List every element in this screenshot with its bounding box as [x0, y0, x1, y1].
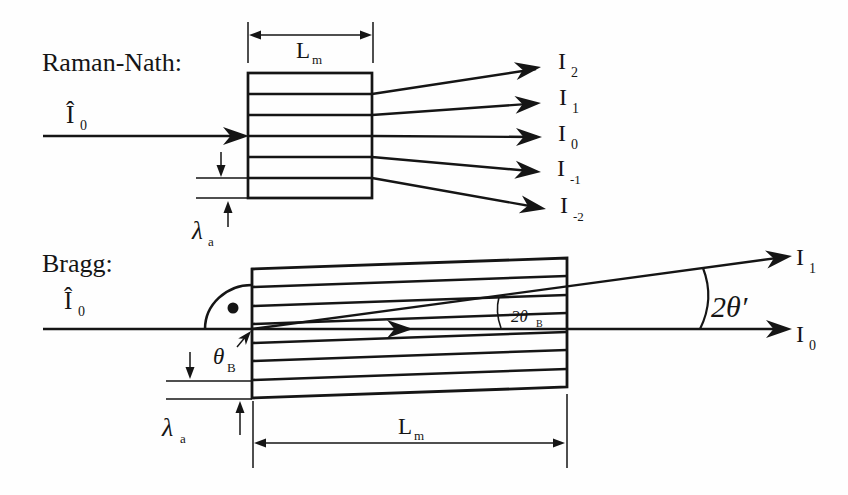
incident-beam-label-sub: 0 [80, 118, 87, 133]
spacing-arrowhead-up [236, 401, 245, 413]
raman-nath-labels: Raman-Nath: Î 0 L m λ a I 2 I 1 I 0 I -1… [42, 38, 584, 249]
internal-angle-label: 2θ [511, 307, 528, 326]
order-arrowhead-im2 [519, 196, 548, 218]
acoustic-wavefront-lines [248, 94, 372, 178]
width-label: L [296, 38, 310, 63]
bragg-labels: Bragg: Î 0 θ B 2θ B 2θ′ I 1 I 0 L m λ a [42, 244, 816, 446]
wavelength-label: λ [161, 413, 173, 442]
acoustic-wavefront-line [252, 276, 567, 287]
order-label-i1: I [796, 244, 804, 270]
dimension-arrowhead [254, 439, 266, 448]
order-label-im1: I [557, 155, 565, 181]
lambda-callout-top [196, 152, 248, 227]
incident-beam-label: Î [66, 101, 75, 128]
internal-angle-arc [497, 297, 501, 328]
incident-beam-label: Î [64, 287, 73, 314]
order-label-i0: I [558, 120, 566, 146]
spacing-arrowhead-up [224, 201, 233, 213]
order-arrowhead-i1 [765, 247, 793, 268]
acoustic-wavefront-line [252, 369, 567, 380]
order-label-i0-sub: 0 [571, 137, 578, 152]
wavelength-label-sub: a [180, 431, 186, 446]
bragg-title: Bragg: [42, 249, 113, 278]
bragg-arrowheads [186, 247, 794, 447]
wavelength-label-sub: a [208, 234, 214, 249]
incident-beam-label-sub: 0 [78, 304, 85, 319]
external-angle-arc [700, 268, 708, 329]
acoustic-wavefront-line [252, 350, 567, 361]
order-label-im2-sub: -2 [573, 209, 584, 224]
width-label-sub: m [414, 428, 424, 443]
dimension-arrowhead [249, 31, 261, 40]
figure-canvas: Raman-Nath: Î 0 L m λ a I 2 I 1 I 0 I -1… [0, 0, 848, 495]
width-label-sub: m [312, 52, 322, 67]
spacing-arrowhead-down [186, 367, 195, 379]
width-label: L [398, 414, 412, 439]
raman-nath-title: Raman-Nath: [42, 48, 182, 77]
order-arrowhead-i2 [514, 58, 543, 80]
order-label-i0-sub: 0 [809, 338, 816, 353]
order-line-im2 [372, 178, 541, 208]
wavelength-label: λ [191, 217, 203, 244]
order-line-i1 [372, 103, 536, 115]
internal-angle-label-sub: B [536, 318, 543, 329]
acousto-optic-diffraction-figure: Raman-Nath: Î 0 L m λ a I 2 I 1 I 0 I -1… [0, 0, 848, 495]
dimension-arrowhead [553, 439, 565, 448]
order-label-im2: I [560, 192, 568, 218]
lm-dimension-top [248, 22, 373, 63]
bragg-angle-label: θ [213, 344, 224, 369]
order-label-i1: I [559, 84, 567, 110]
dimension-arrowhead [360, 31, 372, 40]
bragg-angle-label-sub: B [227, 360, 236, 375]
order-label-i1-sub: 1 [572, 101, 579, 116]
external-angle-label: 2θ′ [711, 290, 748, 323]
lambda-callout-bottom [166, 352, 252, 435]
raman-nath-arrowheads [217, 31, 548, 218]
order-label-i2-sub: 2 [571, 65, 578, 80]
order-label-i0: I [796, 321, 804, 347]
order-label-im1-sub: -1 [570, 172, 581, 187]
diffracted-order-lines [372, 69, 541, 208]
order-label-i2: I [558, 48, 566, 74]
order-line-im1 [372, 157, 536, 172]
acoustic-wavefront-line [252, 295, 567, 306]
transducer-dot [228, 303, 239, 314]
order-line-i0 [372, 136, 537, 137]
order-label-i1-sub: 1 [809, 261, 816, 276]
order-line-i2 [372, 69, 536, 94]
spacing-arrowhead-down [217, 165, 226, 177]
acoustic-wavefront-line [252, 332, 567, 343]
